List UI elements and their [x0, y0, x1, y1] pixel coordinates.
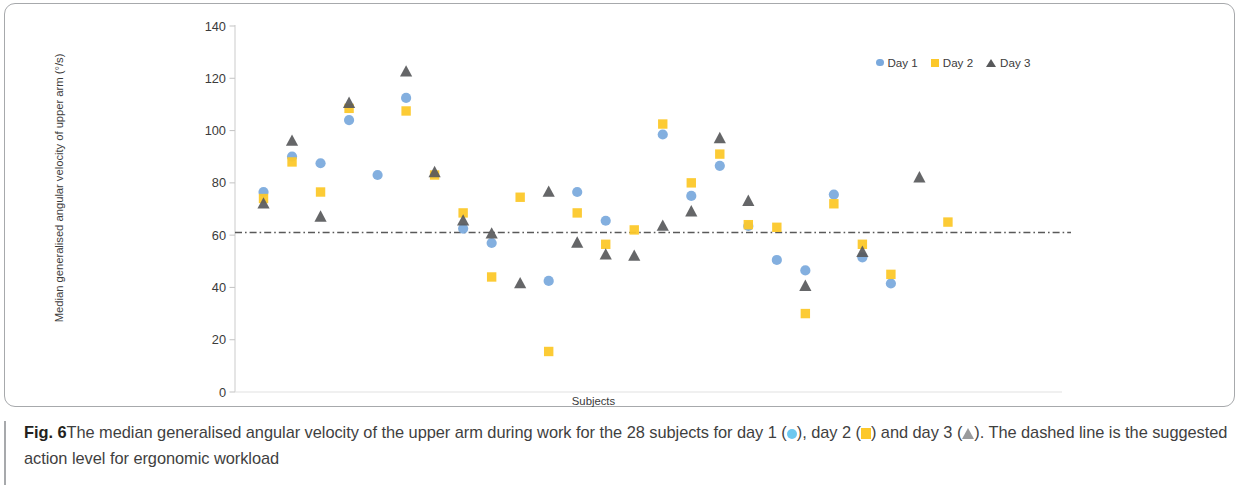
data-point — [715, 149, 724, 158]
data-point — [544, 276, 554, 286]
data-point — [744, 220, 753, 229]
y-axis-tick-label: 40 — [212, 280, 226, 295]
y-axis-tick-label: 100 — [205, 123, 226, 138]
figure-caption: Fig. 6The median generalised angular vel… — [4, 420, 1235, 471]
circle-icon — [876, 59, 884, 67]
data-point — [343, 97, 355, 108]
data-point — [544, 347, 553, 356]
data-point — [487, 272, 496, 281]
data-point — [686, 191, 696, 201]
y-axis-title: Median generalised angular velocity of u… — [53, 38, 65, 338]
data-point — [543, 185, 555, 196]
scatter-chart: 020406080100120140 — [5, 4, 1236, 408]
legend-item-day-1: Day 1 — [876, 56, 918, 69]
square-icon — [931, 59, 939, 67]
y-axis-tick-label: 60 — [212, 228, 226, 243]
legend-item-day-2: Day 2 — [931, 56, 973, 69]
data-point — [658, 119, 667, 128]
data-point — [571, 236, 583, 247]
legend-label-day-3: Day 3 — [1000, 56, 1030, 69]
data-point — [943, 217, 952, 226]
legend-item-day-3: Day 3 — [986, 56, 1030, 69]
data-point — [601, 240, 610, 249]
y-axis-tick-label: 80 — [212, 175, 226, 190]
data-point — [372, 170, 382, 180]
data-point — [287, 157, 296, 166]
caption-segment-1: The median generalised angular velocity … — [67, 423, 787, 441]
data-point — [913, 171, 925, 182]
data-point — [286, 134, 298, 145]
series-day-2 — [259, 104, 953, 357]
series-day-1 — [258, 93, 896, 289]
x-axis-title-label: Subjects — [572, 395, 615, 407]
data-point — [573, 208, 582, 217]
data-point — [657, 219, 669, 230]
data-point — [886, 278, 896, 288]
data-point — [829, 190, 839, 200]
data-point — [658, 129, 668, 139]
legend-label-day-2: Day 2 — [943, 56, 973, 69]
data-point — [630, 225, 639, 234]
data-point — [799, 280, 811, 291]
data-point — [514, 277, 526, 288]
data-point — [600, 248, 612, 259]
legend-label-day-1: Day 1 — [888, 56, 918, 69]
data-point — [515, 193, 524, 202]
data-point — [800, 265, 810, 275]
y-axis-tick-label: 20 — [212, 332, 226, 347]
data-point — [316, 187, 325, 196]
data-point — [886, 270, 895, 279]
y-axis-tick-label: 140 — [205, 19, 226, 34]
figure-panel: 020406080100120140 Median generalised an… — [4, 3, 1235, 407]
triangle-icon — [962, 428, 974, 439]
data-point — [401, 106, 410, 115]
chart-plot-area: 020406080100120140 Median generalised an… — [5, 4, 1236, 408]
data-point — [401, 93, 411, 103]
figure-label: Fig. 6 — [24, 423, 67, 441]
data-point — [829, 199, 838, 208]
data-point — [685, 205, 697, 216]
chart-legend: Day 1 Day 2 Day 3 — [876, 56, 1030, 69]
square-icon — [861, 428, 871, 439]
data-point — [314, 210, 326, 221]
data-point — [742, 195, 754, 206]
x-axis-title: Subjects — [5, 395, 1236, 407]
data-point — [801, 309, 810, 318]
y-axis-tick-label: 120 — [205, 71, 226, 86]
data-point — [344, 115, 354, 125]
data-point — [487, 238, 497, 248]
data-point — [315, 158, 325, 168]
data-point — [772, 255, 782, 265]
series-day-3 — [257, 65, 925, 291]
caption-segment-2: ), day 2 ( — [797, 423, 861, 441]
circle-icon — [787, 429, 797, 439]
data-point — [714, 132, 726, 143]
data-point — [628, 249, 640, 260]
caption-text: Fig. 6The median generalised angular vel… — [24, 420, 1235, 471]
data-point — [687, 178, 696, 187]
data-point — [572, 187, 582, 197]
data-point — [715, 161, 725, 171]
caption-segment-3: ) and day 3 ( — [871, 423, 962, 441]
data-point — [772, 223, 781, 232]
triangle-icon — [986, 59, 996, 67]
data-point — [400, 65, 412, 76]
data-point — [601, 216, 611, 226]
